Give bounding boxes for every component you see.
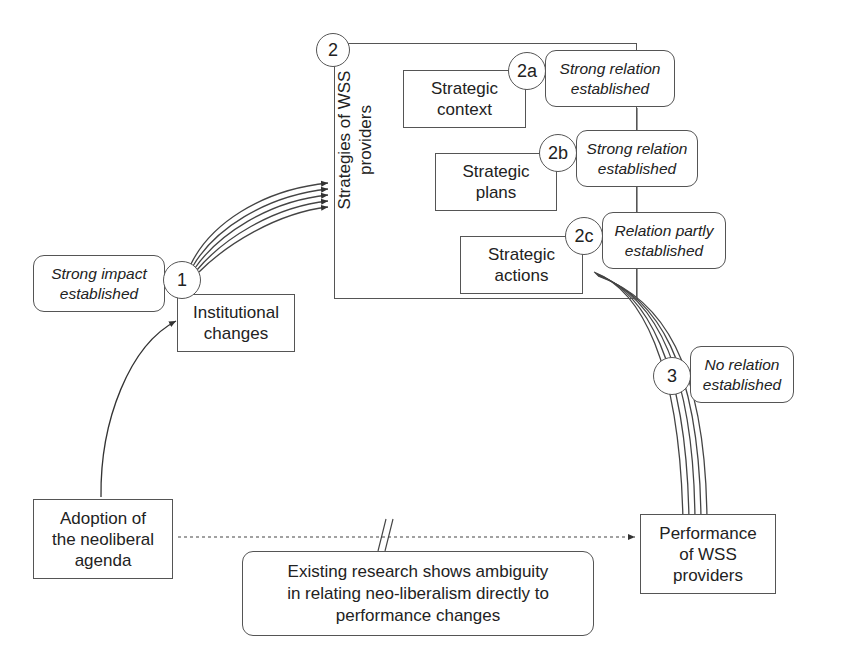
impact-arrows-1-to-2 <box>191 183 328 272</box>
note-line: No relation <box>703 355 781 375</box>
label-line: Strategies of WSS <box>334 71 355 210</box>
label-line: actions <box>488 265 555 286</box>
label-line: Strategic <box>462 161 529 182</box>
node-number-2: 2 <box>316 33 350 67</box>
note-line: established <box>587 159 688 179</box>
node-number-2c: 2c <box>565 217 603 255</box>
note-line: established <box>560 79 661 99</box>
node-strategic-plans: Strategic plans <box>435 153 557 211</box>
node-strategic-context: Strategic context <box>403 70 526 128</box>
label-line: Strategic <box>431 78 498 99</box>
note-line: established <box>614 241 713 261</box>
label-line: the neoliberal <box>52 529 154 550</box>
relation-arrows-2c-to-3 <box>594 272 707 522</box>
label-line: Institutional <box>193 302 279 323</box>
note-line: Strong relation <box>560 59 661 79</box>
note-ambiguity: Existing research shows ambiguity in rel… <box>242 551 594 636</box>
note-line: established <box>51 284 147 304</box>
label-line: providers <box>355 71 376 210</box>
node-performance-wss-providers: Performance of WSS providers <box>640 514 776 594</box>
note-1: Strong impact established <box>33 255 165 312</box>
note-2b: Strong relation established <box>576 130 698 187</box>
node-number-2b: 2b <box>539 134 577 172</box>
note-line: Strong impact <box>51 264 147 284</box>
note-line: Relation partly <box>614 221 713 241</box>
note-line: Existing research shows ambiguity <box>287 561 549 583</box>
label-line: plans <box>462 182 529 203</box>
node-adoption-neoliberal-agenda: Adoption of the neoliberal agenda <box>33 499 173 579</box>
label-line: Strategic <box>488 244 555 265</box>
number-label: 1 <box>177 270 187 291</box>
label-line: of WSS <box>659 544 756 565</box>
note-2a: Strong relation established <box>545 50 675 107</box>
number-label: 2a <box>517 61 537 82</box>
node-number-2a: 2a <box>508 52 546 90</box>
note-line: performance changes <box>287 605 549 627</box>
break-mark-2 <box>385 519 393 551</box>
node-institutional-changes: Institutional changes <box>177 294 295 352</box>
node-number-3: 3 <box>653 357 691 395</box>
break-mark-1 <box>378 519 386 551</box>
note-line: in relating neo-liberalism directly to <box>287 583 549 605</box>
strategies-vertical-label: Strategies of WSS providers <box>300 90 410 190</box>
number-label: 2b <box>548 143 568 164</box>
note-line: Strong relation <box>587 139 688 159</box>
label-line: context <box>431 99 498 120</box>
node-strategic-actions: Strategic actions <box>460 236 583 294</box>
number-label: 3 <box>667 366 677 387</box>
label-line: agenda <box>52 550 154 571</box>
note-3: No relation established <box>690 346 794 403</box>
label-line: Performance <box>659 523 756 544</box>
number-label: 2c <box>574 226 593 247</box>
note-line: established <box>703 375 781 395</box>
note-2c: Relation partly established <box>602 212 726 269</box>
label-line: providers <box>659 565 756 586</box>
label-line: changes <box>193 323 279 344</box>
arrow-adoption-to-institutional <box>101 321 176 497</box>
node-number-1: 1 <box>163 261 201 299</box>
number-label: 2 <box>328 40 338 61</box>
label-line: Adoption of <box>52 508 154 529</box>
